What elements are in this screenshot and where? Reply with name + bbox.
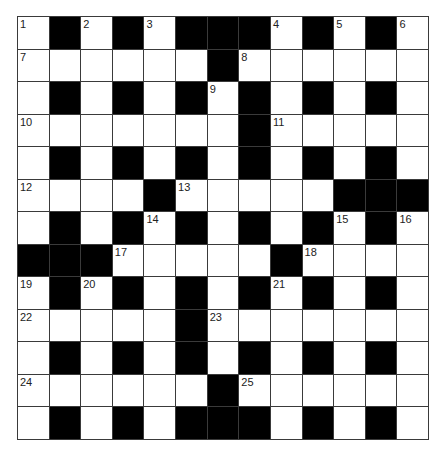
answer-cell[interactable]: 19 [18,277,49,309]
answer-cell[interactable] [239,180,270,212]
answer-cell[interactable] [271,50,302,82]
answer-cell[interactable] [208,277,239,309]
answer-cell[interactable] [113,50,144,82]
answer-cell[interactable] [303,50,334,82]
answer-cell[interactable] [334,277,365,309]
answer-cell[interactable] [271,180,302,212]
answer-cell[interactable]: 25 [239,375,270,407]
answer-cell[interactable] [397,342,428,374]
answer-cell[interactable] [144,407,175,439]
answer-cell[interactable] [397,310,428,342]
answer-cell[interactable] [144,342,175,374]
answer-cell[interactable]: 15 [334,212,365,244]
answer-cell[interactable]: 14 [144,212,175,244]
answer-cell[interactable]: 1 [18,17,49,49]
answer-cell[interactable] [176,115,207,147]
answer-cell[interactable] [81,342,112,374]
answer-cell[interactable] [334,82,365,114]
answer-cell[interactable] [81,310,112,342]
answer-cell[interactable] [144,375,175,407]
answer-cell[interactable]: 22 [18,310,49,342]
answer-cell[interactable] [366,115,397,147]
answer-cell[interactable] [303,180,334,212]
answer-cell[interactable] [239,310,270,342]
answer-cell[interactable]: 4 [271,17,302,49]
answer-cell[interactable] [50,115,81,147]
answer-cell[interactable] [144,82,175,114]
answer-cell[interactable] [334,147,365,179]
answer-cell[interactable] [81,180,112,212]
answer-cell[interactable] [397,277,428,309]
answer-cell[interactable] [397,407,428,439]
answer-cell[interactable] [366,50,397,82]
answer-cell[interactable] [208,115,239,147]
answer-cell[interactable] [176,245,207,277]
answer-cell[interactable] [334,375,365,407]
answer-cell[interactable] [334,50,365,82]
answer-cell[interactable]: 2 [81,17,112,49]
answer-cell[interactable] [397,115,428,147]
answer-cell[interactable] [303,310,334,342]
answer-cell[interactable] [397,245,428,277]
answer-cell[interactable] [271,342,302,374]
answer-cell[interactable] [271,407,302,439]
answer-cell[interactable] [271,212,302,244]
answer-cell[interactable] [334,245,365,277]
answer-cell[interactable] [144,147,175,179]
answer-cell[interactable] [81,50,112,82]
answer-cell[interactable] [334,310,365,342]
answer-cell[interactable] [366,310,397,342]
answer-cell[interactable] [271,375,302,407]
answer-cell[interactable] [208,180,239,212]
answer-cell[interactable] [334,115,365,147]
answer-cell[interactable] [176,50,207,82]
answer-cell[interactable] [18,407,49,439]
answer-cell[interactable]: 8 [239,50,270,82]
answer-cell[interactable]: 17 [113,245,144,277]
answer-cell[interactable] [113,115,144,147]
answer-cell[interactable] [50,375,81,407]
answer-cell[interactable] [113,310,144,342]
answer-cell[interactable]: 9 [208,82,239,114]
answer-cell[interactable] [81,212,112,244]
answer-cell[interactable]: 6 [397,17,428,49]
answer-cell[interactable]: 24 [18,375,49,407]
answer-cell[interactable] [271,310,302,342]
answer-cell[interactable] [366,245,397,277]
answer-cell[interactable]: 23 [208,310,239,342]
answer-cell[interactable]: 16 [397,212,428,244]
answer-cell[interactable] [18,342,49,374]
answer-cell[interactable] [208,212,239,244]
answer-cell[interactable] [144,245,175,277]
answer-cell[interactable]: 21 [271,277,302,309]
answer-cell[interactable] [176,375,207,407]
answer-cell[interactable]: 10 [18,115,49,147]
answer-cell[interactable] [113,180,144,212]
answer-cell[interactable] [81,375,112,407]
answer-cell[interactable] [366,375,397,407]
answer-cell[interactable] [18,212,49,244]
answer-cell[interactable] [144,50,175,82]
answer-cell[interactable] [81,115,112,147]
answer-cell[interactable] [144,115,175,147]
answer-cell[interactable] [144,310,175,342]
answer-cell[interactable] [239,245,270,277]
answer-cell[interactable] [18,147,49,179]
answer-cell[interactable] [18,82,49,114]
answer-cell[interactable] [271,82,302,114]
answer-cell[interactable] [397,82,428,114]
answer-cell[interactable]: 5 [334,17,365,49]
answer-cell[interactable]: 7 [18,50,49,82]
answer-cell[interactable] [81,82,112,114]
answer-cell[interactable]: 20 [81,277,112,309]
answer-cell[interactable]: 12 [18,180,49,212]
answer-cell[interactable] [334,407,365,439]
answer-cell[interactable] [208,245,239,277]
answer-cell[interactable] [113,375,144,407]
answer-cell[interactable]: 3 [144,17,175,49]
answer-cell[interactable] [303,115,334,147]
answer-cell[interactable]: 18 [303,245,334,277]
answer-cell[interactable]: 13 [176,180,207,212]
answer-cell[interactable] [50,180,81,212]
answer-cell[interactable] [50,50,81,82]
